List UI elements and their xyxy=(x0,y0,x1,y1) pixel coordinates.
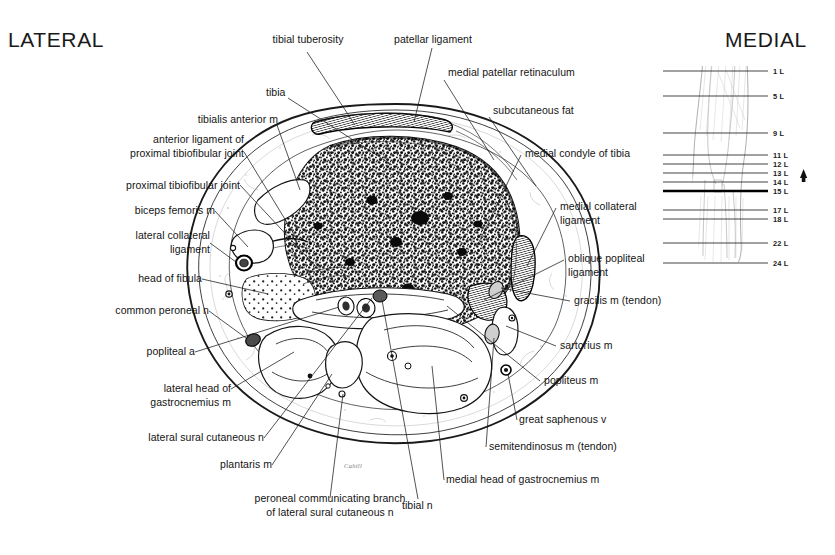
label-biceps-femoris-m: biceps femoris m xyxy=(75,204,215,218)
label-common-peroneal-n: common peroneal n xyxy=(60,304,209,318)
level-label-15L: 15 L xyxy=(773,187,789,196)
level-label-22L: 22 L xyxy=(773,239,789,248)
label-tibia: tibia xyxy=(266,86,286,100)
level-label-14L: 14 L xyxy=(773,178,789,187)
label-plantaris-m: plantaris m xyxy=(150,458,272,472)
current-level-arrow-icon xyxy=(800,169,807,182)
label-oblique-popliteal-ligament: oblique popliteal ligament xyxy=(568,252,645,279)
label-popliteus-m: popliteus m xyxy=(544,374,598,388)
level-label-1L: 1 L xyxy=(773,67,784,76)
label-gracilis-m-tendon: gracilis m (tendon) xyxy=(574,294,661,308)
label-medial-condyle-of-tibia: medial condyle of tibia xyxy=(525,147,630,161)
label-peroneal-communicating-branch: peroneal communicating branch of lateral… xyxy=(160,492,500,519)
level-label-13L: 13 L xyxy=(773,169,789,178)
level-label-24L: 24 L xyxy=(773,259,789,268)
level-label-9L: 9 L xyxy=(773,129,784,138)
label-tibialis-anterior-m: tibialis anterior m xyxy=(80,113,278,127)
label-tibial-n: tibial n xyxy=(402,499,433,513)
label-proximal-tibiofibular-joint: proximal tibiofibular joint xyxy=(58,179,240,193)
artist-signature: Cahill xyxy=(344,462,362,469)
level-label-12L: 12 L xyxy=(773,160,789,169)
label-medial-collateral-ligament: medial collateral ligament xyxy=(560,200,637,227)
level-label-18L: 18 L xyxy=(773,215,789,224)
label-popliteal-a: popliteal a xyxy=(95,345,195,359)
label-anterior-ligament-of-proximal-tibiofibular-joint: anterior ligament of proximal tibiofibul… xyxy=(60,133,244,160)
label-semitendinosus-m-tendon: semitendinosus m (tendon) xyxy=(489,440,617,454)
label-medial-head-of-gastrocnemius-m: medial head of gastrocnemius m xyxy=(446,473,599,487)
level-label-11L: 11 L xyxy=(773,151,788,160)
label-subcutaneous-fat: subcutaneous fat xyxy=(493,104,574,118)
label-tibial-tuberosity: tibial tuberosity xyxy=(243,33,373,47)
label-head-of-fibula: head of fibula xyxy=(82,272,202,286)
level-label-17L: 17 L xyxy=(773,206,789,215)
level-label-5L: 5 L xyxy=(773,92,784,101)
label-medial-patellar-retinaculum: medial patellar retinaculum xyxy=(448,66,575,80)
anatomy-plate: LATERAL MEDIAL xyxy=(0,0,835,555)
label-sartorius-m: sartorius m xyxy=(560,339,612,353)
label-lateral-collateral-ligament: lateral collateral ligament xyxy=(80,229,210,256)
label-lateral-sural-cutaneous-n: lateral sural cutaneous n xyxy=(83,431,264,445)
label-patellar-ligament: patellar ligament xyxy=(380,33,486,47)
label-lateral-head-of-gastrocnemius-m: lateral head of gastrocnemius m xyxy=(85,382,231,409)
label-great-saphenous-v: great saphenous v xyxy=(519,413,606,427)
